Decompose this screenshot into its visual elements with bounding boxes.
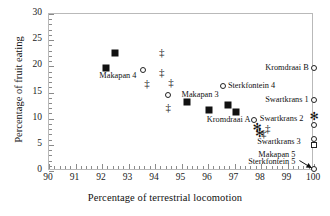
x-axis-tick-label: 96 — [194, 172, 220, 182]
y-axis-tick-label: 30 — [20, 7, 42, 17]
x-axis-tick-label: 92 — [88, 172, 114, 182]
x-axis-tick-label: 100 — [300, 172, 326, 182]
x-axis-tick-label: 91 — [62, 172, 88, 182]
x-axis-tick-label: 93 — [115, 172, 141, 182]
x-axis-title: Percentage of terrestrial locomotion — [0, 192, 330, 203]
x-axis-tick-label: 98 — [247, 172, 273, 182]
y-axis-tick-label: 15 — [20, 86, 42, 96]
y-axis-tick-label: 20 — [20, 59, 42, 69]
x-axis-tick-label: 99 — [274, 172, 300, 182]
scatter-chart: ‡‡‡‡‡‡‡✻✻✻Makapan 4Makapan 3Sterkfontein… — [0, 0, 330, 216]
y-axis-tick-label: 25 — [20, 33, 42, 43]
leader-arrow-icon — [49, 14, 314, 171]
y-axis-tick-label: 0 — [20, 164, 42, 174]
y-axis-tick-label: 5 — [20, 138, 42, 148]
x-axis-tick-label: 97 — [221, 172, 247, 182]
x-axis-tick-label: 95 — [168, 172, 194, 182]
plot-area: ‡‡‡‡‡‡‡✻✻✻Makapan 4Makapan 3Sterkfontein… — [48, 13, 313, 170]
x-axis-tick-label: 94 — [141, 172, 167, 182]
y-axis-tick-label: 10 — [20, 112, 42, 122]
